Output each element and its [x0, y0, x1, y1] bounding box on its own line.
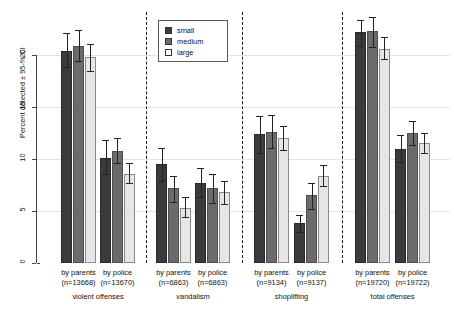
group-n-label: (n=19722): [375, 278, 451, 288]
error-bar-line: [373, 17, 374, 47]
legend-item-large: large: [165, 47, 193, 58]
error-bar-cap-upper: [197, 168, 204, 169]
y-tick: 5: [14, 205, 30, 214]
bar-large: [318, 176, 329, 263]
category-separator: [242, 12, 243, 263]
error-bar-cap-upper: [75, 30, 82, 31]
error-bar-cap-upper: [280, 126, 287, 127]
legend-label-small: small: [177, 27, 194, 35]
bar-large: [278, 138, 289, 263]
error-bar-cap-lower: [409, 145, 416, 146]
legend-item-small: small: [165, 25, 194, 36]
error-bar-line: [106, 140, 107, 173]
error-bar-line: [323, 165, 324, 186]
error-bar-cap-lower: [158, 181, 165, 182]
error-bar-cap-lower: [369, 47, 376, 48]
error-bar-line: [185, 197, 186, 217]
bar-large: [379, 49, 390, 263]
error-bar-cap-upper: [421, 133, 428, 134]
error-bar-line: [272, 115, 273, 147]
error-bar-line: [283, 126, 284, 150]
error-bar-line: [162, 148, 163, 181]
bar-large: [124, 174, 135, 263]
legend-swatch-small-icon: [165, 27, 172, 34]
error-bar-cap-upper: [397, 135, 404, 136]
error-bar-cap-lower: [280, 150, 287, 151]
error-bar-cap-upper: [256, 116, 263, 117]
error-bar-line: [260, 116, 261, 152]
category-separator: [342, 12, 343, 263]
y-tick-label: 15: [18, 98, 27, 114]
y-tick: 10: [14, 153, 30, 162]
x-axis-line: [37, 263, 40, 264]
error-bar-cap-upper: [63, 33, 70, 34]
error-bar-line: [67, 33, 68, 67]
error-bar-cap-upper: [308, 183, 315, 184]
error-bar-cap-upper: [158, 148, 165, 149]
group-detector-label: by police: [375, 268, 451, 278]
group-label: by police(n=19722): [375, 268, 451, 288]
error-bar-line: [201, 168, 202, 197]
error-bar-line: [424, 133, 425, 153]
error-bar-cap-lower: [75, 61, 82, 62]
error-bar-cap-lower: [320, 186, 327, 187]
error-bar-cap-lower: [381, 59, 388, 60]
error-bar-line: [384, 37, 385, 59]
y-tick: 15: [14, 101, 30, 110]
error-bar-cap-lower: [63, 67, 70, 68]
error-bar-line: [401, 135, 402, 162]
error-bar-cap-lower: [308, 209, 315, 210]
bar-medium: [266, 132, 277, 263]
y-tick-mark: [32, 263, 36, 264]
error-bar-line: [79, 30, 80, 61]
error-bar-cap-lower: [114, 163, 121, 164]
bar-medium: [73, 46, 84, 263]
bar-large: [419, 143, 430, 263]
category-label: shoplifting: [242, 292, 342, 301]
error-bar-cap-upper: [209, 174, 216, 175]
error-bar-cap-lower: [126, 183, 133, 184]
bar-medium: [407, 133, 418, 263]
category-separator: [146, 12, 147, 263]
error-bar-cap-lower: [87, 71, 94, 72]
bar-medium: [112, 151, 123, 263]
error-bar-cap-upper: [381, 37, 388, 38]
error-bar-line: [300, 215, 301, 232]
bar-medium: [367, 31, 378, 263]
legend-label-large: large: [177, 49, 193, 57]
error-bar-cap-lower: [268, 148, 275, 149]
error-bar-cap-upper: [182, 197, 189, 198]
y-tick: 20: [14, 49, 30, 58]
error-bar-cap-upper: [87, 44, 94, 45]
y-tick-label: 0: [18, 254, 27, 270]
error-bar-cap-lower: [170, 202, 177, 203]
y-tick: 0: [14, 257, 30, 266]
error-bar-cap-upper: [221, 181, 228, 182]
error-bar-cap-lower: [421, 153, 428, 154]
error-bar-cap-upper: [114, 138, 121, 139]
error-bar-cap-lower: [296, 232, 303, 233]
bar-small: [355, 32, 366, 263]
error-bar-line: [174, 176, 175, 202]
error-bar-line: [213, 174, 214, 203]
y-tick-label: 10: [18, 150, 27, 166]
bar-large: [85, 57, 96, 263]
error-bar-line: [90, 44, 91, 71]
category-label: total offenses: [343, 292, 443, 301]
error-bar-cap-upper: [296, 215, 303, 216]
bar-small: [61, 51, 72, 263]
error-bar-cap-lower: [357, 46, 364, 47]
error-bar-line: [413, 121, 414, 146]
error-bar-cap-lower: [256, 153, 263, 154]
error-bar-line: [312, 183, 313, 209]
error-bar-cap-lower: [397, 162, 404, 163]
error-bar-cap-upper: [170, 176, 177, 177]
category-label: vandalism: [143, 292, 243, 301]
legend-swatch-medium-icon: [165, 38, 172, 45]
error-bar-cap-upper: [409, 121, 416, 122]
bar-chart: Percent detected ± 95-% CI 05101520 by p…: [0, 0, 454, 314]
legend-label-medium: medium: [177, 38, 203, 46]
error-bar-line: [224, 181, 225, 204]
error-bar-cap-lower: [102, 174, 109, 175]
error-bar-cap-upper: [268, 115, 275, 116]
